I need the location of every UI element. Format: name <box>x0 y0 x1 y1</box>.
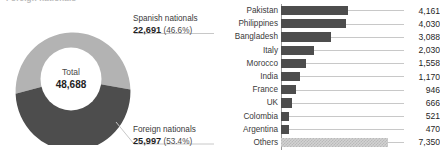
donut-callout-spanish-nationals: Spanish nationals 22,691 (46.6%) <box>133 13 198 37</box>
bar-category-label: UK <box>216 96 278 109</box>
bar[interactable] <box>281 112 289 121</box>
bar-track: 666 <box>281 96 440 109</box>
bar-chart-row: UK666 <box>216 96 440 109</box>
bar-chart-row: India1,170 <box>216 70 440 83</box>
bar-chart-row: Argentina470 <box>216 123 440 136</box>
bar-value-label: 2,030 <box>410 44 440 57</box>
bar-track: 470 <box>281 123 440 136</box>
bar-value-label: 666 <box>410 96 440 109</box>
bar-value-label: 7,350 <box>410 136 440 149</box>
bar-category-label: Colombia <box>216 110 278 123</box>
bar[interactable] <box>281 85 296 94</box>
bar-track: 946 <box>281 83 440 96</box>
bar-chart-row: Morocco1,558 <box>216 57 440 70</box>
bar-chart-row: Colombia521 <box>216 110 440 123</box>
bar-value-label: 4,161 <box>410 4 440 17</box>
bar-leader-line <box>300 76 404 77</box>
callout-value: 25,997 <box>133 136 161 146</box>
bar-leader-line <box>348 10 404 11</box>
callout-percent: (53.4%) <box>164 137 193 146</box>
bar[interactable] <box>281 125 289 134</box>
bar-category-label: France <box>216 83 278 96</box>
callout-percent: (46.6%) <box>164 26 193 35</box>
bar[interactable] <box>281 19 346 28</box>
bar[interactable] <box>281 98 292 107</box>
donut-hole <box>41 48 102 111</box>
figure-root: Foreign nationals Total 48,688 Spanish n… <box>0 0 440 153</box>
callout-value-line: 25,997 (53.4%) <box>133 135 196 148</box>
bar[interactable] <box>281 32 331 41</box>
bar[interactable] <box>281 72 300 81</box>
bar-category-label: Bangladesh <box>216 30 278 43</box>
bar-leader-line <box>296 90 404 91</box>
bar-leader-line <box>289 129 404 130</box>
bar-chart-row: Bangladesh3,088 <box>216 30 440 43</box>
bar-track: 4,161 <box>281 4 440 17</box>
bar-category-label: Italy <box>216 44 278 57</box>
bar-chart-row: Pakistan4,161 <box>216 4 440 17</box>
bar-track: 2,030 <box>281 44 440 57</box>
donut-chart: Total 48,688 <box>6 13 136 145</box>
bar-leader-line <box>289 116 404 117</box>
bar-leader-line <box>331 37 404 38</box>
bar[interactable] <box>281 46 314 55</box>
callout-value: 22,691 <box>133 25 161 35</box>
bar-category-label: India <box>216 70 278 83</box>
bar-leader-line <box>388 142 404 143</box>
bar[interactable] <box>281 6 348 15</box>
bar-category-label: Philippines <box>216 17 278 30</box>
bar-category-label: Others <box>216 136 278 149</box>
bar-track: 521 <box>281 110 440 123</box>
bar-category-label: Morocco <box>216 57 278 70</box>
bar-leader-line <box>306 63 404 64</box>
bar-chart-row: Others7,350 <box>216 136 440 149</box>
bar-value-label: 946 <box>410 83 440 96</box>
bar-track: 4,030 <box>281 17 440 30</box>
bar-track: 1,170 <box>281 70 440 83</box>
callout-value-line: 22,691 (46.6%) <box>133 24 198 37</box>
bar-category-label: Argentina <box>216 123 278 136</box>
bar-value-label: 1,558 <box>410 57 440 70</box>
callout-name: Foreign nationals <box>133 124 196 135</box>
bar-track: 3,088 <box>281 30 440 43</box>
callout-name: Spanish nationals <box>133 13 198 24</box>
bar-chart-row: Philippines4,030 <box>216 17 440 30</box>
clipped-header-text: Foreign nationals <box>6 0 76 3</box>
bar-leader-line <box>346 24 404 25</box>
bar-value-label: 3,088 <box>410 30 440 43</box>
bar[interactable] <box>281 59 306 68</box>
bar-chart-row: Italy2,030 <box>216 44 440 57</box>
bar-value-label: 521 <box>410 110 440 123</box>
bar-value-label: 4,030 <box>410 17 440 30</box>
bar-chart-row: France946 <box>216 83 440 96</box>
bar-track: 7,350 <box>281 136 440 149</box>
bar-leader-line <box>314 50 404 51</box>
bar-chart: Pakistan4,161Philippines4,030Bangladesh3… <box>216 4 440 150</box>
bar-value-label: 470 <box>410 123 440 136</box>
bar-track: 1,558 <box>281 57 440 70</box>
bar-leader-line <box>292 103 404 104</box>
donut-callout-foreign-nationals: Foreign nationals 25,997 (53.4%) <box>133 124 196 148</box>
bar-category-label: Pakistan <box>216 4 278 17</box>
bar[interactable] <box>281 138 388 147</box>
donut-svg <box>6 13 136 145</box>
bar-value-label: 1,170 <box>410 70 440 83</box>
